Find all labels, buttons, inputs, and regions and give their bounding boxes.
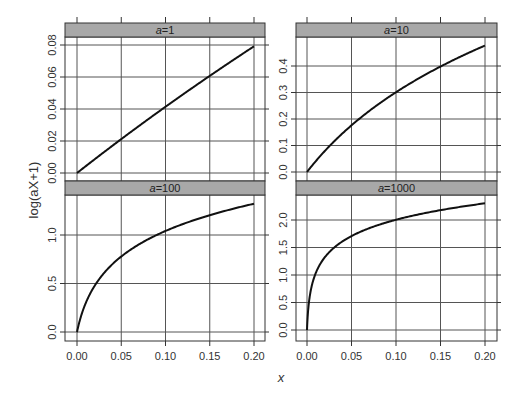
y-tick-label: 1.0 — [277, 267, 289, 282]
x-tick-label: 0.10 — [385, 350, 406, 362]
y-tick-label: 1.5 — [277, 240, 289, 255]
y-tick-label: 0.02 — [46, 130, 58, 151]
y-tick-label: 2.0 — [277, 212, 289, 227]
strip-label: a=1000 — [378, 182, 415, 194]
x-tick-label: 0.05 — [111, 350, 132, 362]
strip-label: a=1 — [156, 24, 175, 36]
y-tick-label: 0.5 — [46, 276, 58, 291]
x-tick-label: 0.00 — [66, 350, 87, 362]
strip-label: a=100 — [150, 182, 181, 194]
x-tick-label: 0.15 — [430, 350, 451, 362]
y-tick-label: 0.2 — [277, 111, 289, 126]
y-tick-label: 0.08 — [46, 34, 58, 55]
y-tick-label: 0.0 — [277, 164, 289, 179]
panel-a-1: a=10.000.020.040.060.08 — [46, 17, 269, 184]
y-tick-label: 0.04 — [46, 98, 58, 119]
panel-a-100: a=1000.00.51.00.000.050.100.150.20 — [46, 181, 269, 362]
x-tick-label: 0.10 — [155, 350, 176, 362]
y-tick-label: 0.06 — [46, 66, 58, 87]
y-tick-label: 0.0 — [277, 322, 289, 337]
lattice-chart: a=10.000.020.040.060.08a=100.00.10.20.30… — [0, 0, 515, 401]
x-axis-label: x — [277, 370, 285, 385]
strip-label: a=10 — [384, 24, 409, 36]
y-tick-label: 0.4 — [277, 58, 289, 73]
x-tick-label: 0.15 — [199, 350, 220, 362]
y-axis-label: log(aX+1) — [26, 162, 41, 219]
y-tick-label: 1.0 — [46, 227, 58, 242]
panel-a-1000: a=10000.00.51.01.52.00.000.050.100.150.2… — [277, 181, 501, 362]
x-tick-label: 0.20 — [243, 350, 264, 362]
panel-a-10: a=100.00.10.20.30.4 — [277, 17, 501, 181]
x-tick-label: 0.00 — [296, 350, 317, 362]
y-tick-label: 0.3 — [277, 85, 289, 100]
y-tick-label: 0.1 — [277, 138, 289, 153]
x-tick-label: 0.05 — [341, 350, 362, 362]
y-tick-label: 0.00 — [46, 162, 58, 183]
y-tick-label: 0.5 — [277, 295, 289, 310]
y-tick-label: 0.0 — [46, 324, 58, 339]
x-tick-label: 0.20 — [474, 350, 495, 362]
